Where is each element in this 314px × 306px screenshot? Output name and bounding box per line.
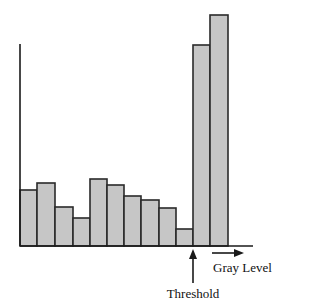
histogram-bar — [20, 190, 37, 246]
histogram-bar — [55, 207, 73, 246]
x-axis-label: Gray Level — [213, 260, 272, 275]
histogram-chart: Gray Level Threshold — [0, 0, 314, 306]
histogram-bar — [210, 15, 228, 246]
histogram-bar — [159, 208, 176, 246]
threshold-arrow-icon — [189, 249, 197, 283]
histogram-bar — [107, 185, 124, 246]
gray-level-arrow-icon — [212, 249, 244, 257]
histogram-bar — [124, 196, 141, 246]
histogram-bar — [141, 200, 159, 246]
histogram-bar — [176, 229, 193, 246]
threshold-label: Threshold — [167, 286, 220, 301]
histogram-bar — [90, 179, 107, 246]
histogram-bar — [193, 45, 210, 246]
histogram-bar — [37, 183, 55, 246]
histogram-bar — [73, 218, 90, 246]
histogram-bars — [20, 15, 228, 246]
